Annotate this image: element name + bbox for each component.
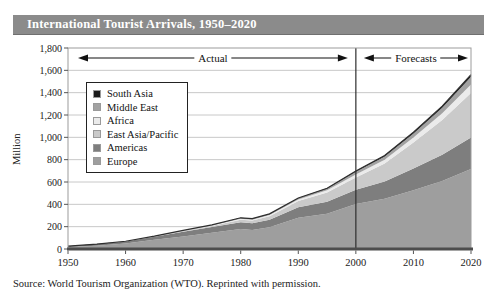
- legend-item-middle-east: Middle East: [93, 101, 178, 115]
- annotation-label-forecasts: Forecasts: [391, 52, 441, 64]
- y-tick-label: 0: [57, 244, 62, 255]
- x-tick-label: 1980: [230, 257, 251, 268]
- arrow-right-icon: [338, 54, 348, 61]
- legend-item-africa: Africa: [93, 114, 178, 128]
- y-tick-label: 1,600: [40, 65, 63, 76]
- legend-label: Africa: [107, 115, 134, 126]
- y-tick-label: 400: [47, 199, 62, 210]
- legend-label: Middle East: [107, 102, 158, 113]
- stacked-area-chart: 02004006008001,0001,2001,4001,6001,80019…: [0, 36, 497, 268]
- arrow-left-icon: [364, 54, 374, 61]
- figure-title-bar: International Tourist Arrivals, 1950–202…: [13, 15, 484, 35]
- legend-swatch-east-asia-pacific: [93, 130, 101, 138]
- y-tick-label: 1,400: [40, 87, 63, 98]
- x-tick-label: 1990: [288, 257, 309, 268]
- y-tick-label: 1,800: [40, 43, 63, 54]
- source-note: Source: World Tourism Organization (WTO)…: [13, 278, 321, 289]
- legend-label: East Asia/Pacific: [107, 129, 178, 140]
- legend-label: Americas: [107, 142, 147, 153]
- annotation-label-actual: Actual: [194, 52, 231, 64]
- legend-item-americas: Americas: [93, 141, 178, 155]
- x-tick-label: 2020: [461, 257, 482, 268]
- legend-item-europe: Europe: [93, 155, 178, 169]
- legend-label: Europe: [107, 156, 137, 167]
- x-tick-label: 1970: [173, 257, 194, 268]
- x-tick-label: 2000: [345, 257, 366, 268]
- legend-swatch-middle-east: [93, 103, 101, 111]
- legend-item-south-asia: South Asia: [93, 87, 178, 101]
- figure-title: International Tourist Arrivals, 1950–202…: [13, 15, 484, 34]
- x-tick-label: 1950: [58, 257, 79, 268]
- legend-swatch-south-asia: [93, 90, 101, 98]
- x-tick-label: 2010: [403, 257, 424, 268]
- y-tick-label: 600: [47, 177, 62, 188]
- legend-swatch-africa: [93, 117, 101, 125]
- figure: International Tourist Arrivals, 1950–202…: [0, 0, 497, 303]
- legend-swatch-europe: [93, 157, 101, 165]
- legend-label: South Asia: [107, 88, 153, 99]
- chart-legend: South AsiaMiddle EastAfricaEast Asia/Pac…: [86, 82, 188, 173]
- y-tick-label: 800: [47, 154, 62, 165]
- arrow-left-icon: [78, 54, 88, 61]
- arrow-right-icon: [458, 54, 468, 61]
- legend-swatch-americas: [93, 144, 101, 152]
- y-tick-label: 1,000: [40, 132, 63, 143]
- y-tick-label: 1,200: [40, 110, 63, 121]
- y-tick-label: 200: [47, 221, 62, 232]
- x-tick-label: 1960: [115, 257, 136, 268]
- legend-item-east-asia-pacific: East Asia/Pacific: [93, 128, 178, 142]
